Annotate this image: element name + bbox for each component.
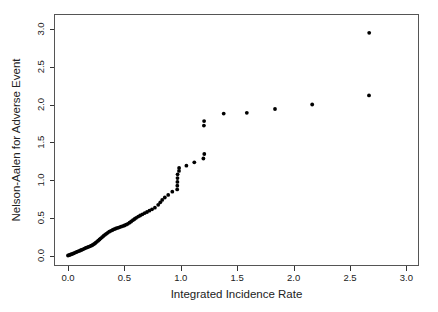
x-tick-label: 1.0: [174, 272, 187, 283]
y-tick-label: 3.0: [35, 22, 46, 35]
y-tick-label: 0.5: [35, 211, 46, 224]
data-point: [185, 164, 189, 168]
x-tick-label: 2.0: [287, 272, 300, 283]
y-axis-title: Nelson-Aalen for Adverse Event: [10, 58, 22, 221]
x-axis-title: Integrated Incidence Rate: [54, 288, 419, 300]
data-point: [202, 119, 206, 123]
scatter-plot-figure: 0.00.51.01.52.02.53.00.00.51.01.52.02.53…: [0, 0, 438, 312]
data-point: [202, 152, 206, 156]
data-point: [222, 112, 226, 116]
y-tick-label: 0.0: [35, 249, 46, 262]
data-point: [245, 111, 249, 115]
data-point: [163, 196, 167, 200]
data-point: [175, 184, 179, 188]
y-tick-label: 1.5: [35, 136, 46, 149]
data-point: [176, 180, 180, 184]
data-point: [170, 190, 174, 194]
y-axis-ticks: 0.00.51.01.52.02.53.0: [35, 22, 54, 262]
data-point: [175, 188, 179, 192]
data-point: [367, 94, 371, 98]
data-point: [177, 166, 181, 170]
data-points-layer: [66, 31, 371, 258]
y-tick-label: 1.0: [35, 173, 46, 186]
plot-canvas: 0.00.51.01.52.02.53.00.00.51.01.52.02.53…: [0, 0, 438, 312]
x-tick-label: 0.0: [61, 272, 74, 283]
y-tick-label: 2.0: [35, 98, 46, 111]
data-point: [176, 172, 180, 176]
plot-frame: [55, 15, 419, 266]
y-tick-label: 2.5: [35, 60, 46, 73]
x-axis-ticks: 0.00.51.01.52.02.53.0: [61, 266, 413, 283]
x-tick-label: 2.5: [343, 272, 356, 283]
data-point: [273, 107, 277, 111]
x-tick-label: 1.5: [231, 272, 244, 283]
data-point: [176, 176, 180, 180]
data-point: [202, 157, 206, 161]
data-point: [192, 160, 196, 164]
x-tick-label: 0.5: [118, 272, 131, 283]
data-point: [310, 103, 314, 107]
data-point: [153, 206, 157, 210]
x-tick-label: 3.0: [400, 272, 413, 283]
data-point: [166, 193, 170, 197]
data-point: [202, 124, 206, 128]
data-point: [367, 31, 371, 35]
